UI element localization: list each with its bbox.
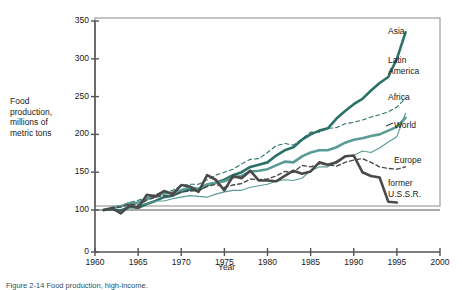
y-tick-label: 150 bbox=[55, 166, 89, 176]
x-tick-label: 1980 bbox=[251, 257, 285, 267]
series-label-world: World bbox=[394, 120, 416, 131]
y-tick-label: 100 bbox=[55, 204, 89, 214]
series-line-latin-america bbox=[104, 98, 406, 210]
series-label-asia: Asia bbox=[388, 26, 405, 37]
y-tick-label: 200 bbox=[55, 128, 89, 138]
x-tick-label: 1985 bbox=[294, 257, 328, 267]
x-tick-label: 1995 bbox=[380, 257, 414, 267]
x-tick-label: 1990 bbox=[337, 257, 371, 267]
x-tick-label: 1960 bbox=[78, 257, 112, 267]
x-tick-label: 1975 bbox=[207, 257, 241, 267]
x-tick-label: 1970 bbox=[164, 257, 198, 267]
series-label-africa: Africa bbox=[388, 92, 410, 103]
y-tick-label: 0 bbox=[55, 246, 89, 256]
series-label-latin-america: Latin America bbox=[388, 55, 419, 76]
y-tick-label: 250 bbox=[55, 91, 89, 101]
figure-caption: Figure 2-14 Food production, high-income… bbox=[6, 281, 148, 290]
world-label-leader bbox=[386, 123, 393, 126]
series-label-former-ussr: former U.S.S.R. bbox=[388, 178, 421, 199]
series-line-asia bbox=[104, 32, 406, 210]
x-tick-label: 1965 bbox=[121, 257, 155, 267]
y-tick-label: 350 bbox=[55, 15, 89, 25]
series-label-europe: Europe bbox=[394, 155, 421, 166]
x-tick-label: 2000 bbox=[423, 257, 457, 267]
y-tick-label: 300 bbox=[55, 53, 89, 63]
